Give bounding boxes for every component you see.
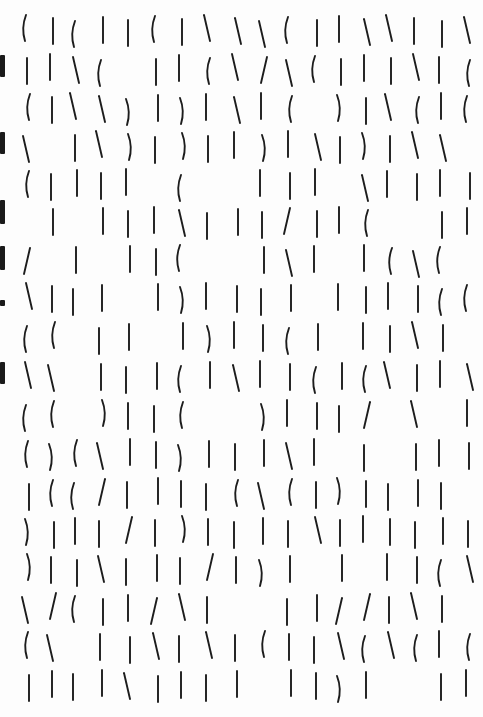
pen-stroke (152, 95, 164, 121)
pen-stroke (284, 364, 296, 390)
pen-stroke (283, 443, 295, 469)
pen-stroke (47, 593, 59, 619)
pen-stroke (409, 522, 421, 548)
pen-stroke (312, 324, 324, 350)
pen-stroke (203, 58, 215, 84)
pen-stroke (256, 21, 268, 47)
pen-stroke (174, 175, 186, 201)
pen-stroke (461, 208, 473, 234)
pen-stroke (200, 675, 212, 701)
pen-stroke (309, 367, 321, 393)
pen-stroke (176, 594, 188, 620)
pen-stroke (200, 283, 212, 309)
pen-stroke (46, 671, 58, 697)
pen-stroke (148, 16, 160, 42)
pen-stroke (460, 285, 472, 311)
pen-stroke (358, 245, 370, 271)
pen-stroke (361, 402, 373, 428)
pen-stroke (381, 362, 393, 388)
pen-stroke (47, 401, 59, 427)
pen-stroke (174, 558, 186, 584)
pen-stroke (255, 93, 267, 119)
pen-stroke (202, 136, 214, 162)
pen-stroke (44, 444, 56, 470)
pen-stroke (45, 174, 57, 200)
pen-stroke (464, 364, 476, 390)
pen-stroke (409, 322, 421, 348)
registration-mark (0, 200, 5, 224)
scanned-page (0, 0, 483, 717)
pen-stroke (229, 444, 241, 470)
pen-stroke (23, 484, 35, 510)
pen-stroke (230, 557, 242, 583)
pen-stroke (412, 480, 424, 506)
pen-stroke (121, 99, 133, 125)
pen-stroke (149, 137, 161, 163)
pen-stroke (411, 557, 423, 583)
pen-stroke (174, 366, 186, 392)
pen-stroke (93, 521, 105, 547)
pen-stroke (460, 96, 472, 122)
pen-stroke (21, 248, 33, 274)
pen-stroke (308, 637, 320, 663)
pen-stroke (204, 554, 216, 580)
pen-stroke (282, 131, 294, 157)
pen-stroke (97, 17, 109, 43)
pen-stroke (229, 635, 241, 661)
pen-stroke (120, 559, 132, 585)
pen-stroke (335, 59, 347, 85)
pen-stroke (124, 439, 136, 465)
pen-stroke (203, 441, 215, 467)
pen-stroke (382, 94, 394, 120)
pen-stroke (45, 365, 57, 391)
pen-stroke (93, 328, 105, 354)
pen-stroke (257, 135, 269, 161)
pen-stroke (231, 671, 243, 697)
pen-stroke (21, 58, 33, 84)
pen-stroke (281, 400, 293, 426)
pen-stroke (23, 283, 35, 309)
pen-stroke (123, 324, 135, 350)
pen-stroke (47, 209, 59, 235)
pen-stroke (411, 365, 423, 391)
pen-stroke (360, 98, 372, 124)
pen-stroke (360, 481, 372, 507)
registration-mark (0, 55, 5, 77)
pen-stroke (96, 285, 108, 311)
pen-stroke (96, 670, 108, 696)
pen-stroke (433, 247, 445, 273)
pen-stroke (434, 361, 446, 387)
pen-stroke (152, 676, 164, 702)
pen-stroke (308, 56, 320, 82)
pen-stroke (258, 247, 270, 273)
pen-stroke (173, 636, 185, 662)
pen-stroke (23, 94, 35, 120)
pen-stroke (232, 18, 244, 44)
pen-stroke (283, 60, 295, 86)
pen-stroke (94, 60, 106, 86)
pen-stroke (70, 247, 82, 273)
pen-stroke (284, 173, 296, 199)
pen-stroke (433, 57, 445, 83)
pen-stroke (361, 210, 373, 236)
pen-stroke (45, 557, 57, 583)
pen-stroke (173, 55, 185, 81)
pen-stroke (385, 58, 397, 84)
pen-stroke (336, 555, 348, 581)
pen-stroke (231, 286, 243, 312)
pen-stroke (71, 560, 83, 586)
pen-stroke (357, 516, 369, 542)
pen-stroke (232, 209, 244, 235)
pen-stroke (201, 597, 213, 623)
pen-stroke (284, 556, 296, 582)
pen-stroke (67, 93, 79, 119)
pen-stroke (70, 440, 82, 466)
pen-stroke (122, 403, 134, 429)
pen-stroke (383, 15, 395, 41)
pen-stroke (152, 284, 164, 310)
pen-stroke (359, 366, 371, 392)
pen-stroke (67, 483, 79, 509)
pen-stroke (148, 207, 160, 233)
pen-stroke (255, 289, 267, 315)
pen-stroke (95, 364, 107, 390)
